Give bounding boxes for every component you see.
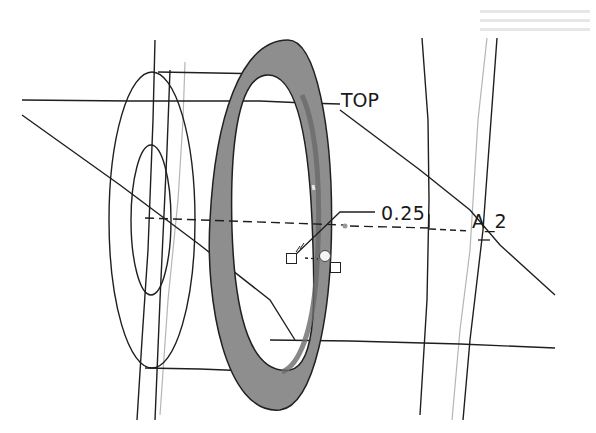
- model-viewport[interactable]: TOP 0.25 A_2: [0, 0, 596, 433]
- ring-part[interactable]: [209, 40, 331, 410]
- datum-plane-label[interactable]: TOP: [341, 91, 379, 110]
- faded-toolbar-ghost: [480, 4, 590, 50]
- drag-handle-square[interactable]: [286, 253, 297, 264]
- drag-handle-square[interactable]: [330, 262, 341, 273]
- dimension-value[interactable]: 0.25: [381, 204, 425, 223]
- hole-outline: [109, 72, 195, 368]
- axis-label[interactable]: A_2: [472, 212, 507, 231]
- pivot-handle-circle[interactable]: [319, 250, 331, 262]
